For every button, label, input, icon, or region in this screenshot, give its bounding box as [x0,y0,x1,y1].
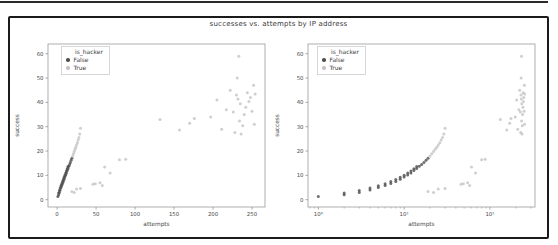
legend-marker-false-icon [66,58,70,62]
data-point-false [317,195,320,198]
data-point-true [220,128,223,131]
data-point-true [239,102,242,105]
data-point-true [499,118,502,121]
x-axis-label: attempts [408,221,434,228]
x-tick-label: 10⁰ [314,211,323,217]
data-point-true [244,106,247,109]
data-point-true [522,96,525,99]
data-point-true [109,171,112,174]
y-tick-label: 40 [37,99,44,105]
data-point-true [470,166,473,169]
data-point-false [384,182,387,185]
data-point-true [193,117,196,120]
y-tick-label: 60 [37,51,44,57]
x-tick-label: 100 [130,211,141,217]
legend-title: is_hacker [318,48,365,56]
data-point-true [253,123,256,126]
data-point-true [523,123,526,126]
data-point-false [420,163,423,166]
legend-entry-true: True [318,64,365,72]
data-point-false [368,187,371,190]
data-point-true [519,94,522,97]
data-point-true [514,115,517,118]
data-point-true [523,84,526,87]
data-point-true [508,122,511,125]
data-point-true [247,100,250,103]
data-point-true [518,89,521,92]
y-tick-label: 30 [297,124,304,130]
y-tick-label: 40 [297,99,304,105]
legend-entry-true: True [62,64,109,72]
data-point-true [178,129,181,132]
data-point-true [462,182,465,185]
data-point-true [209,115,212,118]
legend-label-false: False [74,56,89,64]
data-point-true [522,100,525,103]
data-point-true [516,128,519,131]
data-point-true [442,133,445,136]
data-point-true [235,94,238,97]
y-tick-label: 10 [37,172,44,178]
data-point-true [252,84,255,87]
legend-label-true: True [74,64,87,72]
x-tick-label: 150 [169,211,180,217]
y-tick-label: 0 [40,197,44,203]
y-tick-label: 60 [297,51,304,57]
data-point-true [441,136,444,139]
data-point-true [466,181,469,184]
data-point-true [94,182,97,185]
legend-entry-false: False [62,56,109,64]
data-point-true [521,106,524,109]
data-point-true [505,129,508,132]
data-point-true [523,110,526,113]
x-axis-label: attempts [143,221,169,228]
data-point-true [77,139,80,142]
y-tick-label: 10 [297,172,304,178]
data-point-true [484,158,487,161]
data-point-true [246,91,249,94]
data-point-true [77,136,80,139]
legend-label-true: True [330,64,343,72]
data-point-true [73,191,76,194]
legend-marker-true-icon [322,66,326,70]
data-point-true [124,158,127,161]
x-tick-label: 0 [55,211,59,217]
data-point-true [236,77,239,80]
data-point-true [480,158,483,161]
x-tick-label: 10¹ [400,211,409,217]
data-point-false [403,174,406,177]
data-point-true [103,166,106,169]
y-axis-label: success [274,114,280,137]
data-point-true [520,77,523,80]
data-point-true [101,184,104,187]
data-point-true [75,188,78,191]
data-point-true [229,89,232,92]
legend-entry-false: False [318,56,365,64]
legend-marker-false-icon [322,58,326,62]
data-point-true [523,93,526,96]
scatter-plot-linear-x: 0501001502002500102030405060attemptssucc… [6,32,271,232]
x-tick-label: 250 [247,211,258,217]
data-point-true [98,181,101,184]
data-point-true [236,97,239,100]
legend-title: is_hacker [62,48,109,56]
data-point-true [468,184,471,187]
data-point-false [418,165,421,168]
page-top-rule-divider [0,1,548,3]
data-point-true [254,93,257,96]
data-point-false [415,165,418,168]
data-point-false [409,169,412,172]
data-point-false [389,180,392,183]
data-point-true [520,119,523,122]
data-point-true [427,190,430,193]
figure-title: successes vs. attempts by IP address [8,20,549,28]
data-point-false [406,171,409,174]
data-point-true [118,158,121,161]
data-point-true [79,127,82,130]
data-point-true [79,187,82,190]
data-point-false [394,178,397,181]
data-point-false [412,167,415,170]
data-point-true [520,133,523,136]
legend-right: is_hacker False True [317,46,366,75]
y-tick-label: 20 [37,148,44,154]
